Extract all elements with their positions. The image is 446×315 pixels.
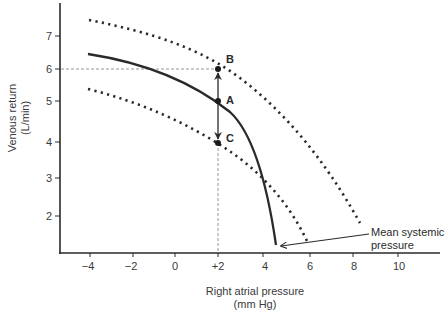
point-c	[215, 140, 221, 146]
annotation-arrow	[281, 234, 369, 246]
annotation-mean-systemic: Mean systemic	[371, 226, 445, 238]
x-tick-label: 4	[262, 260, 268, 272]
y-tick-label: 4	[46, 136, 52, 148]
x-tick-label: −2	[125, 260, 138, 272]
x-tick-label: 6	[307, 260, 313, 272]
y-axis-title: Venous return	[6, 84, 18, 153]
y-tick-label: 2	[46, 210, 52, 222]
venous-return-chart: B A C 7 6 5 4 3 2 −4 −2 0 +2 4 6 8 10 Ri…	[0, 0, 446, 315]
x-tick-label: −4	[82, 260, 95, 272]
y-tick-label: 7	[46, 30, 52, 42]
lower-dotted-curve	[88, 89, 307, 241]
point-c-label: C	[226, 132, 234, 144]
x-axis-unit: (mm Hg)	[234, 298, 277, 310]
upper-dotted-curve	[89, 20, 360, 223]
main-venous-return-curve	[88, 54, 276, 245]
point-b-label: B	[226, 53, 234, 65]
x-tick-label: +2	[212, 260, 225, 272]
x-tick-label: 0	[172, 260, 178, 272]
annotation-pressure: pressure	[371, 239, 414, 251]
y-tick-label: 3	[46, 172, 52, 184]
y-tick-label: 5	[46, 95, 52, 107]
x-tick-label: 10	[393, 260, 405, 272]
y-axis-unit: (L/min)	[19, 101, 31, 135]
point-a	[215, 98, 221, 104]
point-b	[215, 66, 221, 72]
y-tick-label: 6	[46, 63, 52, 75]
x-tick-label: 8	[351, 260, 357, 272]
x-axis-title: Right atrial pressure	[206, 285, 304, 297]
point-a-label: A	[226, 94, 234, 106]
